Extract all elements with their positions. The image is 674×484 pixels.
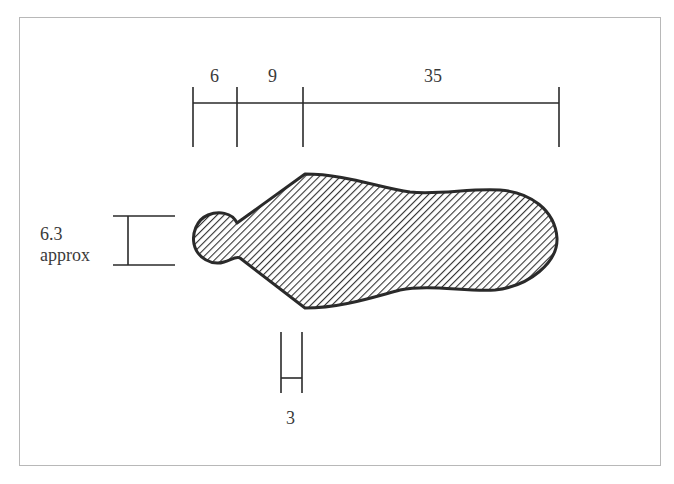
dimension-label-9: 9	[268, 67, 277, 85]
dimension-label-approx: approx	[40, 246, 90, 264]
top-dimension-line	[193, 87, 559, 147]
dimension-label-35: 35	[424, 67, 442, 85]
dimension-label-6: 6	[210, 67, 219, 85]
dimension-label-3: 3	[286, 409, 295, 427]
diagram-canvas	[0, 0, 674, 484]
bottom-dimension-bracket	[281, 332, 302, 393]
hatched-cross-section-shape	[194, 174, 558, 308]
dimension-label-6-3: 6.3	[40, 225, 63, 243]
left-dimension-bracket	[113, 216, 175, 265]
